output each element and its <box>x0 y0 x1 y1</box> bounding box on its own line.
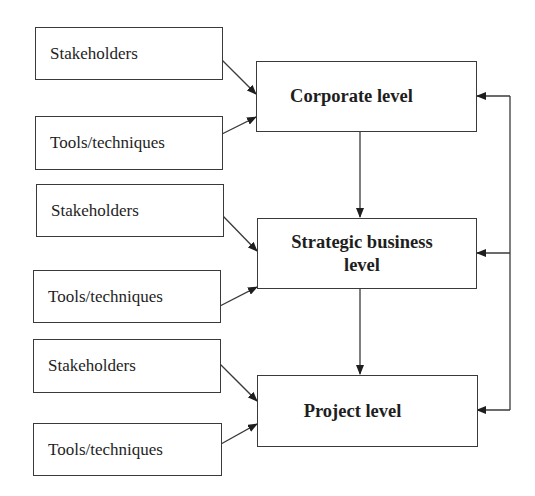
strategic-business-level-label: Strategic business level <box>272 231 452 276</box>
arrow-tools-3-to-project <box>221 424 257 444</box>
tools-label: Tools/techniques <box>34 440 163 460</box>
corporate-level-label: Corporate level <box>267 85 437 108</box>
arrow-tools-2-to-strategic <box>220 287 257 306</box>
tools-label: Tools/techniques <box>34 287 163 307</box>
project-level-label: Project level <box>268 400 438 423</box>
tools-box-project: Tools/techniques <box>33 423 222 476</box>
arrow-stakeholders-1-to-corporate <box>222 60 256 94</box>
stakeholders-box-strategic: Stakeholders <box>36 184 224 237</box>
strategic-business-level-box: Strategic business level <box>257 218 477 289</box>
stakeholders-label: Stakeholders <box>37 201 139 221</box>
stakeholders-label: Stakeholders <box>36 44 138 64</box>
tools-label: Tools/techniques <box>36 133 165 153</box>
stakeholders-box-corporate: Stakeholders <box>35 27 223 80</box>
stakeholders-label: Stakeholders <box>34 356 136 376</box>
arrow-stakeholders-2-to-strategic <box>223 216 257 251</box>
tools-box-corporate: Tools/techniques <box>35 116 223 170</box>
arrow-tools-1-to-corporate <box>222 117 256 134</box>
project-level-box: Project level <box>257 375 478 447</box>
tools-box-strategic: Tools/techniques <box>33 270 221 323</box>
stakeholders-box-project: Stakeholders <box>33 339 221 393</box>
corporate-level-box: Corporate level <box>256 61 477 132</box>
arrow-stakeholders-3-to-project <box>220 364 257 401</box>
